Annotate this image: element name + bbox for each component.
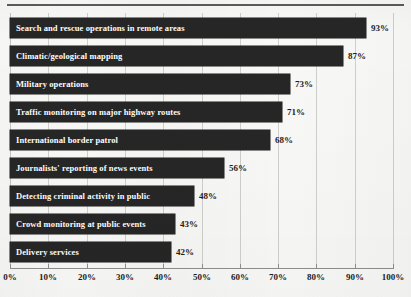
- bar-value-label: 48%: [199, 186, 217, 206]
- x-tick-80: [316, 264, 317, 269]
- x-tick-label-20: 20%: [78, 272, 96, 282]
- x-tick-40: [163, 264, 164, 269]
- x-tick-label-30: 30%: [116, 272, 134, 282]
- bar-value-label: 93%: [371, 18, 389, 38]
- x-tick-20: [87, 264, 88, 269]
- x-tick-30: [125, 264, 126, 269]
- bar-category-label: Journalists' reporting of news events: [16, 158, 153, 178]
- x-tick-label-80: 80%: [307, 272, 325, 282]
- x-tick-10: [48, 264, 49, 269]
- x-tick-label-40: 40%: [154, 272, 172, 282]
- x-tick-70: [278, 264, 279, 269]
- bar-row: Search and rescue operations in remote a…: [0, 18, 411, 38]
- bar-category-label: Search and rescue operations in remote a…: [16, 18, 185, 38]
- bar-category-label: Delivery services: [16, 242, 79, 262]
- bar-row: Detecting criminal activity in public48%: [0, 186, 411, 206]
- x-tick-label-90: 90%: [346, 272, 364, 282]
- bar-category-label: International border patrol: [16, 130, 118, 150]
- x-tick-label-70: 70%: [269, 272, 287, 282]
- bar-value-label: 43%: [180, 214, 198, 234]
- x-tick-90: [355, 264, 356, 269]
- x-tick-label-100: 100%: [382, 272, 405, 282]
- bar-category-label: Crowd monitoring at public events: [16, 214, 146, 234]
- bar-value-label: 87%: [348, 46, 366, 66]
- bar-row: Delivery services42%: [0, 242, 411, 262]
- plot-area: Search and rescue operations in remote a…: [0, 13, 411, 268]
- bar-value-label: 68%: [275, 130, 293, 150]
- bar-category-label: Military operations: [16, 74, 89, 94]
- x-tick-label-0: 0%: [3, 272, 17, 282]
- bar-row: Climatic/geological mapping87%: [0, 46, 411, 66]
- bar-category-label: Detecting criminal activity in public: [16, 186, 150, 206]
- bar-row: Military operations73%: [0, 74, 411, 94]
- x-tick-100: [393, 264, 394, 269]
- bar-row: Crowd monitoring at public events43%: [0, 214, 411, 234]
- x-tick-60: [240, 264, 241, 269]
- x-tick-0: [10, 264, 11, 269]
- x-tick-label-50: 50%: [193, 272, 211, 282]
- bar-value-label: 73%: [295, 74, 313, 94]
- bar-category-label: Traffic monitoring on major highway rout…: [16, 102, 181, 122]
- bar-row: Journalists' reporting of news events56%: [0, 158, 411, 178]
- bar-row: International border patrol68%: [0, 130, 411, 150]
- bar-value-label: 56%: [229, 158, 247, 178]
- x-tick-label-60: 60%: [231, 272, 249, 282]
- top-divider-rule: [7, 4, 404, 6]
- x-tick-50: [202, 264, 203, 269]
- x-tick-label-10: 10%: [39, 272, 57, 282]
- bar-category-label: Climatic/geological mapping: [16, 46, 122, 66]
- bar-chart: Search and rescue operations in remote a…: [0, 0, 411, 297]
- bar-row: Traffic monitoring on major highway rout…: [0, 102, 411, 122]
- bar-value-label: 71%: [287, 102, 305, 122]
- bar-value-label: 42%: [176, 242, 194, 262]
